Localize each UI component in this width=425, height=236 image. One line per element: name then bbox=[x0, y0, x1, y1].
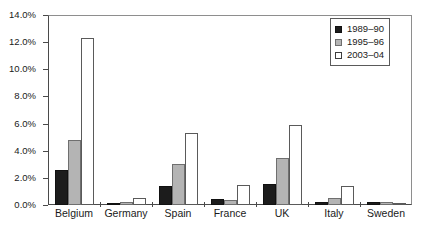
legend-swatch-icon bbox=[335, 52, 342, 59]
x-axis-tick-mark bbox=[100, 202, 101, 207]
y-axis-tick-label: 0.0% bbox=[14, 200, 36, 210]
legend-swatch-icon bbox=[335, 26, 342, 33]
bar bbox=[276, 158, 289, 205]
x-axis-tick-label: Sweden bbox=[367, 207, 405, 220]
y-axis-tick-mark bbox=[43, 205, 48, 206]
bar bbox=[185, 133, 198, 205]
x-axis-tick-label: Belgium bbox=[55, 207, 93, 220]
x-axis-tick-mark bbox=[360, 202, 361, 207]
bar bbox=[237, 185, 250, 205]
bar bbox=[224, 200, 237, 205]
bar bbox=[380, 202, 393, 205]
y-axis-tick-label: 12.0% bbox=[9, 37, 36, 47]
y-axis-tick-label: 14.0% bbox=[9, 10, 36, 20]
legend-swatch-icon bbox=[335, 39, 342, 46]
bar-chart: 0.0%2.0%4.0%6.0%8.0%10.0%12.0%14.0% Belg… bbox=[0, 0, 425, 236]
x-axis-tick-mark bbox=[308, 202, 309, 207]
bar bbox=[289, 125, 302, 205]
legend-item[interactable]: 1989–90 bbox=[335, 23, 384, 35]
bar bbox=[159, 186, 172, 205]
chart-legend: 1989–901995–962003–04 bbox=[330, 18, 390, 66]
legend-item-label: 2003–04 bbox=[347, 50, 384, 60]
x-axis-tick-mark bbox=[256, 202, 257, 207]
y-axis-tick-label: 8.0% bbox=[14, 91, 36, 101]
bar-group bbox=[211, 15, 250, 205]
bar bbox=[55, 170, 68, 205]
bar-group bbox=[55, 15, 94, 205]
x-axis-tick-label: UK bbox=[275, 207, 290, 220]
x-axis-tick-mark bbox=[152, 202, 153, 207]
legend-item-label: 1989–90 bbox=[347, 24, 384, 34]
bar bbox=[107, 203, 120, 205]
bar-group bbox=[263, 15, 302, 205]
legend-item[interactable]: 2003–04 bbox=[335, 49, 384, 61]
x-axis: BelgiumGermanySpainFranceUKItalySweden bbox=[48, 207, 412, 227]
bar bbox=[263, 184, 276, 205]
bar bbox=[120, 202, 133, 205]
y-axis: 0.0%2.0%4.0%6.0%8.0%10.0%12.0%14.0% bbox=[0, 0, 44, 236]
bar bbox=[367, 202, 380, 205]
x-axis-tick-label: Germany bbox=[104, 207, 147, 220]
y-axis-tick-label: 6.0% bbox=[14, 119, 36, 129]
x-axis-tick-label: Italy bbox=[324, 207, 343, 220]
bar bbox=[341, 186, 354, 205]
y-axis-tick-label: 2.0% bbox=[14, 173, 36, 183]
x-axis-tick-mark bbox=[204, 202, 205, 207]
bar bbox=[68, 140, 81, 205]
bar bbox=[81, 38, 94, 205]
bar bbox=[172, 164, 185, 205]
bar bbox=[133, 198, 146, 205]
bar-group bbox=[107, 15, 146, 205]
legend-item-label: 1995–96 bbox=[347, 37, 384, 47]
bar bbox=[211, 199, 224, 205]
x-axis-tick-label: France bbox=[214, 207, 247, 220]
legend-item[interactable]: 1995–96 bbox=[335, 36, 384, 48]
bar bbox=[328, 198, 341, 205]
bar bbox=[393, 203, 406, 205]
bar bbox=[315, 202, 328, 205]
y-axis-tick-label: 4.0% bbox=[14, 146, 36, 156]
y-axis-tick-label: 10.0% bbox=[9, 64, 36, 74]
bar-group bbox=[159, 15, 198, 205]
x-axis-tick-label: Spain bbox=[165, 207, 192, 220]
